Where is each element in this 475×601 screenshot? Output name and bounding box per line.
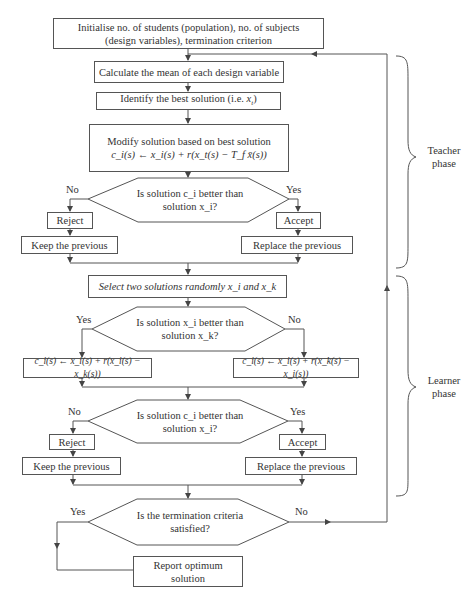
learner-phase-brace	[396, 276, 416, 496]
replace1-box: Replace the previous	[241, 236, 353, 254]
select-box: Select two solutions randomly x_i and x_…	[88, 275, 287, 298]
mean-box: Calculate the mean of each design variab…	[94, 61, 284, 83]
arrow-d3-yes	[288, 421, 302, 433]
learner-phase-label: Learner phase	[416, 374, 472, 400]
keep1-box: Keep the previous	[21, 236, 118, 254]
mean-text: Calculate the mean of each design variab…	[99, 66, 279, 79]
modify-box: Modify solution based on best solution c…	[89, 124, 289, 172]
d2-no-label: No	[288, 314, 301, 325]
reject2-box: Reject	[49, 434, 95, 450]
init-box: Initialise no. of students (population),…	[53, 18, 324, 49]
formula-left-box: c_i(s) ← x_i(s) + r(x_i(s) − x_k(s))	[23, 358, 152, 378]
d1-no-label: No	[66, 184, 79, 195]
d1-yes-label: Yes	[286, 184, 301, 195]
d3-no-label: No	[68, 406, 81, 417]
d3-yes-label: Yes	[290, 406, 305, 417]
decision1-text: Is solution c_i better than solution x_i…	[110, 185, 270, 215]
arrow-d4-yes	[57, 522, 88, 548]
arrow-d3-no	[73, 421, 88, 433]
best-text: Identify the best solution (i.e. xt)	[120, 92, 256, 110]
teacher-phase-label: Teacher phase	[416, 144, 472, 170]
decision3-text: Is solution c_i better than solution x_i…	[110, 407, 270, 437]
replace2-box: Replace the previous	[245, 457, 357, 475]
init-text-line1: Initialise no. of students (population),…	[78, 21, 300, 34]
d4-yes-label: Yes	[70, 506, 85, 517]
report-box: Report optimum solution	[133, 556, 243, 587]
d4-no-label: No	[295, 506, 308, 517]
modify-text-line1: Modify solution based on best solution	[107, 135, 271, 148]
decision2-text: Is solution x_i better than solution x_k…	[112, 314, 268, 344]
arrow-d1-yes	[289, 199, 298, 211]
keep2-box: Keep the previous	[22, 457, 121, 475]
arrow-d2-no	[285, 329, 304, 357]
init-text-line2: (design variables), termination criterio…	[105, 34, 272, 47]
d2-yes-label: Yes	[76, 314, 91, 325]
arrow-d2-yes	[82, 329, 92, 357]
reject1-box: Reject	[47, 212, 93, 229]
decision4-text: Is the termination criteria satisfied?	[110, 507, 270, 537]
accept2-box: Accept	[279, 434, 326, 450]
modify-formula: c_i(s) ← x_i(s) + r(x_t(s) − T_f x̄(s))	[111, 148, 267, 161]
accept1-box: Accept	[276, 212, 321, 229]
formula-right-box: c_i(s) ← x_i(s) + r(x_k(s) − x_i(s))	[233, 358, 359, 378]
best-box: Identify the best solution (i.e. xt)	[96, 92, 281, 110]
arrow-d1-no	[70, 199, 88, 211]
teacher-phase-brace	[396, 56, 416, 268]
